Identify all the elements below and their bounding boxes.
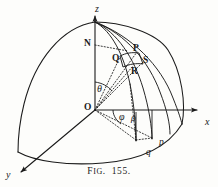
spherical-coordinates-diagram: [0, 0, 218, 187]
axis-lines: [21, 16, 197, 172]
z-axis-label: z: [95, 4, 99, 14]
point-r-label: R: [131, 67, 138, 77]
equator-arc: [18, 124, 182, 164]
figure-container: z x y O N P Q S R p q θ φ ρ FIG. 155.: [0, 0, 218, 187]
point-q-label: Q: [112, 54, 119, 64]
figure-caption: FIG. 155.: [0, 166, 218, 176]
theta-angle-label: θ: [97, 84, 102, 94]
figure-caption-number: 155.: [112, 166, 131, 176]
right-outline-arc: [95, 22, 183, 124]
x-axis-label: x: [205, 117, 209, 127]
phi-angle-label: φ: [119, 112, 125, 122]
figure-caption-prefix-rest: IG: [93, 167, 103, 176]
point-p-lower-label: p: [159, 138, 164, 148]
origin-label: O: [84, 103, 91, 113]
rho-radius-label: ρ: [131, 113, 136, 123]
meridian-4: [95, 22, 182, 124]
point-q-lower-label: q: [146, 148, 151, 158]
projection-q-to-plane: [95, 110, 136, 140]
point-s-label: S: [143, 56, 148, 66]
equatorial-chord: [136, 138, 152, 140]
point-p-upper-label: P: [133, 44, 139, 54]
north-point-label: N: [84, 39, 91, 49]
